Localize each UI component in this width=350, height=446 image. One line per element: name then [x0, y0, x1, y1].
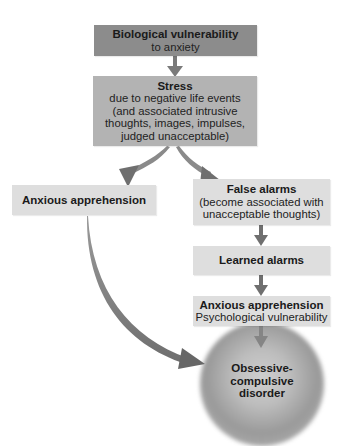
node-title: False alarms	[227, 183, 297, 196]
node-subtitle: Psychological vulnerability	[196, 311, 328, 323]
node-title: Biological vulnerability	[113, 28, 239, 41]
arrow-stress-to-anxious-left	[119, 146, 170, 187]
node-title: Learned alarms	[219, 254, 304, 267]
node-subtitle-line: (become associated with	[199, 196, 323, 209]
arrow-bio-to-stress	[167, 56, 183, 77]
node-subtitle-line: judged unacceptable)	[121, 130, 229, 143]
arrow-false-to-learned	[254, 225, 268, 246]
node-ocd-label: Obsessive-compulsive disorder	[200, 362, 324, 400]
node-anxious-apprehension-right: Anxious apprehension Psychological vulne…	[193, 296, 330, 326]
node-anxious-apprehension-left: Anxious apprehension	[12, 185, 156, 215]
node-title-line: Obsessive-compulsive	[200, 362, 324, 387]
node-title-line: disorder	[200, 387, 324, 400]
node-learned-alarms: Learned alarms	[193, 246, 330, 275]
arrow-anxious-left-to-ocd	[87, 216, 205, 369]
node-biological-vulnerability: Biological vulnerability to anxiety	[94, 25, 257, 56]
node-title: Anxious apprehension	[22, 194, 146, 207]
node-subtitle-line: thoughts, images, impulses,	[105, 117, 245, 130]
node-false-alarms: False alarms (become associated with una…	[193, 179, 330, 225]
arrow-anxious-right-to-ocd	[254, 326, 268, 348]
node-subtitle-line: (and associated intrusive	[113, 105, 238, 118]
node-subtitle-line: unacceptable thoughts)	[203, 208, 320, 221]
node-subtitle: to anxiety	[151, 41, 199, 54]
node-title: Anxious apprehension	[200, 299, 324, 311]
node-stress: Stress due to negative life events (and …	[93, 76, 257, 146]
node-title: Stress	[157, 80, 192, 93]
arrow-learned-to-anxious-right	[254, 275, 268, 296]
node-subtitle-line: due to negative life events	[109, 92, 240, 105]
